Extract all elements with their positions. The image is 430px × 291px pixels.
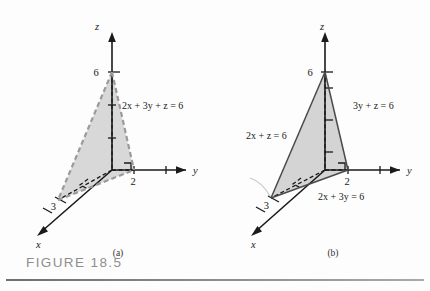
x-axis-label-b: x [250,239,256,250]
xy-trace-equation-label-b: 2x + 3y = 6 [318,191,364,202]
plane-region-a [58,72,134,200]
plane-equation-label-a: 2x + 3y + z = 6 [122,100,183,111]
y-axis-label-b: y [406,165,412,176]
xz-trace-equation-label-b: 2x + z = 6 [246,130,287,141]
z-axis-label-a: z [94,21,99,32]
bottom-divider [6,279,424,281]
yz-trace-equation-label-b: 3y + z = 6 [353,100,394,111]
figure-page: z y x 6 2 3 2x + 3y + z = 6 (a) [0,0,430,291]
y-axis-label-a: y [192,165,198,176]
panel-a: z y x 6 2 3 2x + 3y + z = 6 (a) [35,21,198,259]
x-axis-label-a: x [35,239,41,250]
smudge-mark-b [250,178,270,196]
part-label-b: (b) [327,248,338,259]
panel-b: z y x 6 2 3 3y + z = 6 2x + z = 6 2x + 3… [246,21,412,259]
x-intercept-label-a: 3 [51,201,56,212]
y-intercept-label-b: 2 [344,176,349,187]
figure-illustration: z y x 6 2 3 2x + 3y + z = 6 (a) [0,0,430,291]
figure-caption: FIGURE 18.5 [26,255,122,270]
z-axis-label-b: z [319,21,324,32]
x-intercept-label-b: 3 [264,200,269,211]
y-intercept-label-a: 2 [130,176,135,187]
z-intercept-label-b: 6 [307,67,312,78]
z-intercept-label-a: 6 [93,67,98,78]
